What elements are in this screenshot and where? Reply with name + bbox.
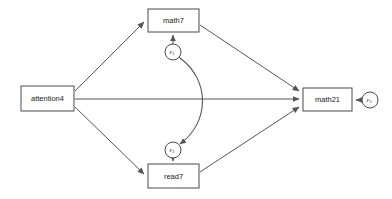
edge-read7-to-math21 <box>200 107 299 172</box>
node-math7-label: math7 <box>163 16 184 25</box>
error-term-e2-subscript: 2 <box>172 149 174 154</box>
node-math21[interactable]: math21 <box>303 88 352 111</box>
node-attention4-label: attention4 <box>31 94 64 103</box>
error-term-e1-subscript: 1 <box>172 51 174 56</box>
edge-attention4-to-read7 <box>75 107 144 174</box>
error-term-e1[interactable]: ε1 <box>165 44 181 60</box>
node-read7-label: read7 <box>164 172 183 181</box>
node-math21-label: math21 <box>315 95 340 104</box>
edge-attention4-to-math7 <box>75 22 144 91</box>
edge-e1-covary-e2 <box>180 58 203 144</box>
error-term-e2[interactable]: ε2 <box>165 142 181 158</box>
error-term-e3[interactable]: ε3 <box>362 92 378 108</box>
node-read7[interactable]: read7 <box>148 164 199 188</box>
edge-math7-to-math21 <box>200 25 299 91</box>
node-math7[interactable]: math7 <box>148 9 199 32</box>
path-diagram-svg: attention4 math7 read7 math21 <box>0 0 392 199</box>
path-diagram-canvas: attention4 math7 read7 math21 <box>0 0 392 199</box>
node-attention4[interactable]: attention4 <box>21 86 74 111</box>
